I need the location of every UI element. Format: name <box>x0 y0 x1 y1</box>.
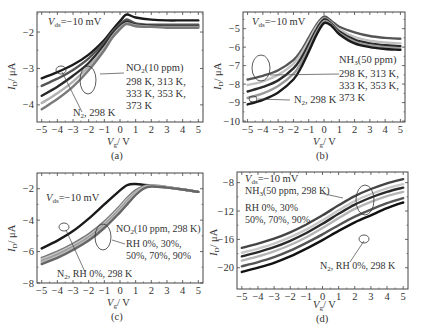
plot-d: −5−4−3−2−1012345−8−12−16−20 <box>0 0 421 334</box>
caption-d: (d) <box>316 313 328 324</box>
x-tick-label: 1 <box>336 291 341 302</box>
annotation-pointer <box>350 241 364 262</box>
y-tick-label: −12 <box>218 206 234 217</box>
xlabel-d: Vg/ V <box>313 299 336 310</box>
rh-label-d: RH 0%, 30%50%, 70%, 90% <box>245 202 310 226</box>
x-tick-label: −1 <box>301 291 312 302</box>
y-tick-label: −8 <box>223 177 234 188</box>
n2-label-d: N2, RH 0%, 298 K <box>320 260 395 272</box>
annotation-ellipse <box>359 235 369 243</box>
gas-label-d: NH3(50 ppm, 298 K) <box>245 185 330 197</box>
x-tick-label: 3 <box>368 291 373 302</box>
x-tick-label: −4 <box>252 291 264 302</box>
ylabel-d: ID/ μA <box>208 229 219 256</box>
panel-d: −5−4−3−2−1012345−8−12−16−20 Vds=−10 mV N… <box>0 0 421 334</box>
x-tick-label: 5 <box>401 291 406 302</box>
y-tick-label: −20 <box>218 262 234 273</box>
x-tick-label: −2 <box>285 291 296 302</box>
vds-label-d: Vds=−10 mV <box>245 173 298 185</box>
x-tick-label: 2 <box>352 291 357 302</box>
x-tick-label: −3 <box>269 291 280 302</box>
x-tick-label: −5 <box>236 291 247 302</box>
x-tick-label: 4 <box>384 291 390 302</box>
y-tick-label: −16 <box>218 234 234 245</box>
